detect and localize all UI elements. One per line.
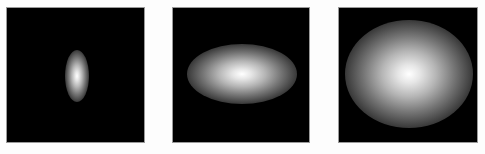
gaussian-panel-1 bbox=[6, 7, 145, 143]
gaussian-blob-horizontal bbox=[187, 44, 297, 104]
gaussian-blob-wide bbox=[345, 20, 473, 128]
gaussian-panel-2 bbox=[172, 7, 310, 143]
gaussian-blob-vertical bbox=[65, 50, 89, 102]
gaussian-panel-3 bbox=[338, 7, 478, 143]
